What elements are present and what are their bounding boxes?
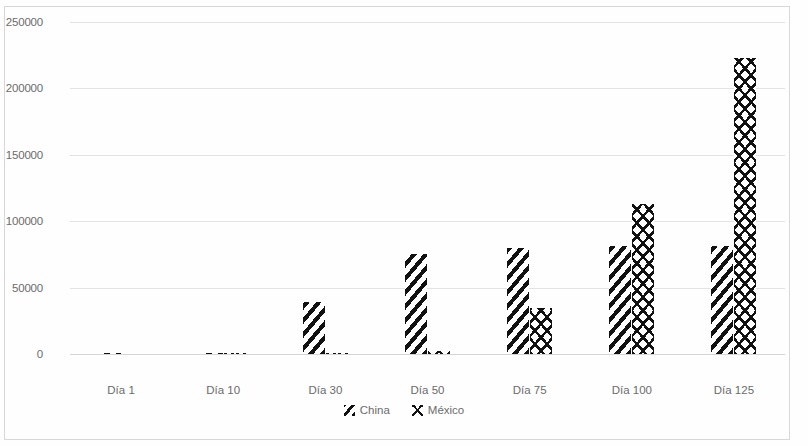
bar-mxico-día-75 (530, 308, 552, 354)
bar-china-día-100 (609, 246, 631, 354)
x-axis-tick-label: Día 125 (686, 384, 782, 396)
x-axis-tick-label: Día 100 (584, 384, 680, 396)
bar-china-día-50 (405, 254, 427, 354)
bar-china-día-1 (99, 353, 121, 355)
legend-entry-china: China (344, 404, 390, 416)
legend-entry-mexico: México (412, 404, 464, 416)
bar-china-día-30 (303, 302, 325, 354)
legend-swatch-mexico-icon (412, 405, 423, 416)
bar-china-día-75 (507, 248, 529, 354)
y-axis-tick-label: 100000 (0, 215, 43, 227)
plot-area: 250000200000150000100000500000Día 1Día 1… (70, 22, 785, 354)
bar-china-día-10 (201, 353, 223, 355)
x-axis-tick-label: Día 30 (277, 384, 373, 396)
y-axis-tick-label: 200000 (0, 82, 43, 94)
chart-container: 250000200000150000100000500000Día 1Día 1… (0, 0, 808, 446)
chart-legend: China México (0, 404, 808, 416)
legend-label-china: China (360, 404, 390, 416)
bar-china-día-125 (711, 246, 733, 354)
y-axis-tick-label: 150000 (0, 149, 43, 161)
bar-mxico-día-30 (326, 353, 348, 355)
bar-group (274, 22, 376, 354)
bar-group (172, 22, 274, 354)
gridline (70, 354, 785, 355)
bar-mxico-día-100 (632, 204, 654, 354)
x-axis-tick-label: Día 50 (380, 384, 476, 396)
y-axis-tick-label: 250000 (0, 16, 43, 28)
bar-group (376, 22, 478, 354)
bar-mxico-día-50 (428, 351, 450, 354)
y-axis-tick-label: 0 (0, 348, 43, 360)
x-axis-tick-label: Día 10 (175, 384, 271, 396)
x-axis-tick-label: Día 1 (73, 384, 169, 396)
y-axis-tick-label: 50000 (0, 282, 43, 294)
bar-mxico-día-10 (224, 353, 246, 355)
legend-label-mexico: México (428, 404, 464, 416)
bar-group (581, 22, 683, 354)
legend-swatch-china-icon (344, 405, 355, 416)
bar-group (70, 22, 172, 354)
bar-group (683, 22, 785, 354)
bar-mxico-día-125 (734, 58, 756, 354)
x-axis-tick-label: Día 75 (482, 384, 578, 396)
bar-group (479, 22, 581, 354)
